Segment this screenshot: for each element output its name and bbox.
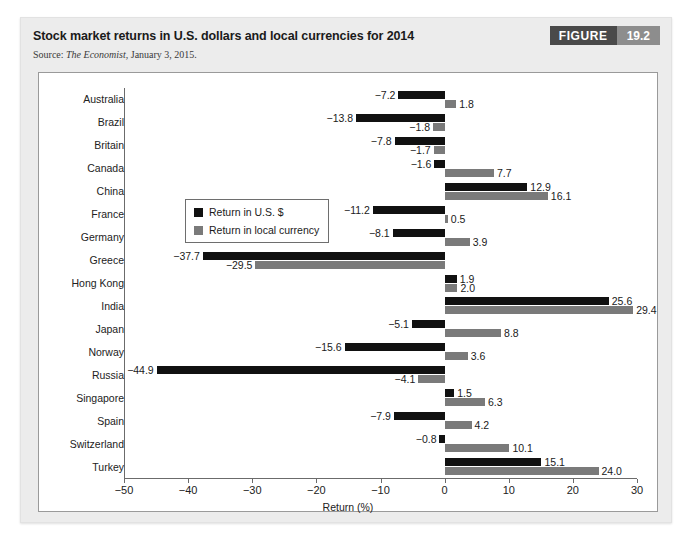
category-label: China bbox=[39, 185, 130, 197]
bar-value-label: 4.2 bbox=[475, 419, 490, 431]
bar-value-label: −13.8 bbox=[327, 112, 354, 124]
category-label: Singapore bbox=[39, 392, 130, 404]
source-suffix: , January 3, 2015. bbox=[126, 49, 197, 60]
bar-local bbox=[445, 238, 470, 246]
bar-local bbox=[445, 444, 510, 452]
category-label: Australia bbox=[39, 93, 130, 105]
bar-usd bbox=[445, 389, 455, 397]
category-label: Brazil bbox=[39, 116, 130, 128]
category-label: Turkey bbox=[39, 461, 130, 473]
bar-value-label: 3.9 bbox=[473, 236, 488, 248]
bar-value-label: −7.9 bbox=[370, 410, 391, 422]
bar-local bbox=[445, 306, 634, 314]
bar-local bbox=[445, 467, 599, 475]
category-label: Britain bbox=[39, 139, 130, 151]
category-label: India bbox=[39, 300, 130, 312]
chart-panel: AustraliaBrazilBritainCanadaChinaFranceG… bbox=[38, 72, 658, 512]
bar-value-label: −5.1 bbox=[388, 318, 409, 330]
bar-local bbox=[445, 215, 448, 223]
bar-local bbox=[255, 261, 444, 269]
category-label: Switzerland bbox=[39, 438, 130, 450]
chart-legend: Return in U.S. $ Return in local currenc… bbox=[185, 199, 329, 243]
bar-usd bbox=[412, 320, 445, 328]
legend-swatch-usd-icon bbox=[194, 208, 203, 217]
category-label: Hong Kong bbox=[39, 277, 130, 289]
category-label: Spain bbox=[39, 415, 130, 427]
bar-local bbox=[433, 123, 445, 131]
bar-value-label: −11.2 bbox=[344, 204, 370, 216]
bar-local bbox=[445, 421, 472, 429]
bar-value-label: −1.7 bbox=[410, 144, 431, 156]
x-tick-label: 0 bbox=[442, 484, 448, 496]
source-publication: The Economist bbox=[66, 49, 126, 60]
x-tick-label: −30 bbox=[243, 484, 262, 496]
bar-value-label: 6.3 bbox=[488, 396, 503, 408]
bar-value-label: −44.9 bbox=[127, 364, 154, 376]
x-tick-mark bbox=[509, 479, 510, 483]
source-prefix: Source: bbox=[33, 49, 66, 60]
category-label: Canada bbox=[39, 162, 130, 174]
bar-value-label: 0.5 bbox=[451, 213, 466, 225]
x-tick-mark bbox=[573, 479, 574, 483]
category-label: France bbox=[39, 208, 130, 220]
bar-usd bbox=[434, 160, 444, 168]
bar-usd bbox=[394, 412, 445, 420]
x-tick-mark bbox=[252, 479, 253, 483]
bar-value-label: −7.8 bbox=[371, 135, 392, 147]
category-label: Greece bbox=[39, 254, 130, 266]
legend-label-local: Return in local currency bbox=[209, 224, 319, 236]
bar-value-label: −0.8 bbox=[416, 433, 437, 445]
bar-local bbox=[434, 146, 445, 154]
x-tick-label: −50 bbox=[115, 484, 134, 496]
figure-container: Stock market returns in U.S. dollars and… bbox=[20, 17, 672, 523]
bar-usd bbox=[398, 91, 444, 99]
x-tick-mark bbox=[188, 479, 189, 483]
bar-usd bbox=[373, 206, 445, 214]
plot-wrap: AustraliaBrazilBritainCanadaChinaFranceG… bbox=[39, 73, 657, 511]
bar-value-label: 3.6 bbox=[471, 350, 486, 362]
category-label: Russia bbox=[39, 369, 130, 381]
bar-usd bbox=[445, 458, 542, 466]
bar-local bbox=[445, 329, 501, 337]
x-tick-mark bbox=[445, 479, 446, 483]
bar-usd bbox=[439, 435, 444, 443]
figure-title: Stock market returns in U.S. dollars and… bbox=[33, 29, 414, 43]
x-tick-label: −10 bbox=[371, 484, 390, 496]
bar-value-label: 8.8 bbox=[504, 327, 519, 339]
bar-local bbox=[445, 169, 494, 177]
bar-value-label: 10.1 bbox=[512, 442, 532, 454]
x-tick-label: 20 bbox=[567, 484, 579, 496]
bar-usd bbox=[356, 114, 444, 122]
bar-value-label: −29.5 bbox=[226, 259, 253, 271]
x-tick-mark bbox=[124, 479, 125, 483]
bar-value-label: −15.6 bbox=[315, 341, 342, 353]
figure-badge-word: FIGURE bbox=[550, 26, 617, 45]
bar-value-label: −37.7 bbox=[173, 250, 200, 262]
bar-usd bbox=[445, 297, 609, 305]
category-label: Norway bbox=[39, 346, 130, 358]
bar-value-label: −1.6 bbox=[411, 158, 432, 170]
figure-badge: FIGURE 19.2 bbox=[550, 26, 660, 45]
figure-source: Source: The Economist, January 3, 2015. bbox=[33, 49, 197, 60]
bar-local bbox=[445, 192, 548, 200]
bar-usd bbox=[345, 343, 445, 351]
legend-swatch-local-icon bbox=[194, 226, 203, 235]
figure-header: Stock market returns in U.S. dollars and… bbox=[21, 18, 671, 68]
category-label: Japan bbox=[39, 323, 130, 335]
bar-value-label: 29.4 bbox=[636, 304, 656, 316]
bar-local bbox=[445, 352, 468, 360]
x-tick-label: 10 bbox=[503, 484, 515, 496]
bar-value-label: 2.0 bbox=[460, 282, 475, 294]
x-tick-label: −20 bbox=[307, 484, 326, 496]
x-tick-label: 30 bbox=[631, 484, 643, 496]
bar-local bbox=[445, 100, 457, 108]
bar-value-label: −8.1 bbox=[369, 227, 390, 239]
bar-value-label: 1.8 bbox=[459, 98, 474, 110]
legend-item-usd: Return in U.S. $ bbox=[194, 206, 284, 218]
bar-value-label: −1.8 bbox=[409, 121, 430, 133]
x-tick-mark bbox=[381, 479, 382, 483]
bar-usd bbox=[445, 275, 457, 283]
x-tick-mark bbox=[637, 479, 638, 483]
legend-label-usd: Return in U.S. $ bbox=[209, 206, 284, 218]
bar-usd bbox=[393, 229, 445, 237]
